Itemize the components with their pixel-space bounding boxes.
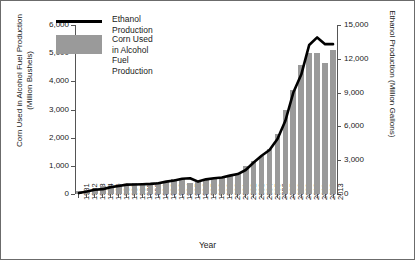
y-axis-left-tick-label: 1,000: [29, 161, 69, 170]
x-axis-tickmark: [150, 194, 151, 198]
x-axis-tickmark: [213, 194, 214, 198]
y-axis-left-tick-label: 3,000: [29, 105, 69, 114]
chart-figure: Corn Used in Alcohol Fuel Production (Mi…: [0, 0, 415, 260]
y-axis-right-spine: [337, 25, 338, 194]
x-axis-tickmark: [293, 194, 294, 198]
y-axis-right-tick-label: 9,000: [344, 88, 364, 97]
x-axis-tickmark: [333, 194, 334, 198]
x-axis-tickmark: [261, 194, 262, 198]
x-axis-tickmark: [269, 194, 270, 198]
y-axis-right-tick-label: 6,000: [344, 121, 364, 130]
x-axis-tickmark: [78, 194, 79, 198]
x-axis-tickmark: [325, 194, 326, 198]
legend-label-ethanol: Ethanol Production: [112, 14, 153, 35]
x-axis-tickmark: [277, 194, 278, 198]
y-axis-right-tick-label: 15,000: [344, 20, 368, 29]
x-axis-tickmark: [221, 194, 222, 198]
x-axis-title: Year: [1, 241, 414, 251]
x-axis-tickmark: [142, 194, 143, 198]
legend-label-corn: Corn Used in Alcohol Fuel Production: [112, 34, 153, 76]
x-axis-tickmark: [245, 194, 246, 198]
x-axis-tickmark: [110, 194, 111, 198]
y-axis-left-tickmark: [71, 194, 75, 195]
y-axis-left-tick-label: 2,000: [29, 133, 69, 142]
x-axis-tickmark: [198, 194, 199, 198]
x-axis-tickmark: [174, 194, 175, 198]
x-axis-tick-label: 2013: [336, 183, 345, 200]
x-axis-tickmark: [301, 194, 302, 198]
legend-bar-swatch: [56, 35, 102, 54]
x-axis-tickmark: [158, 194, 159, 198]
x-axis-tickmark: [285, 194, 286, 198]
y-axis-right-tick-label: 12,000: [344, 54, 368, 63]
y-axis-right-title: Ethanol Production (Million Gallons): [387, 0, 397, 149]
x-axis-tickmark: [126, 194, 127, 198]
x-axis-tickmark: [253, 194, 254, 198]
x-axis-tickmark: [102, 194, 103, 198]
y-axis-right-tick-label: 3,000: [344, 155, 364, 164]
x-axis-tickmark: [182, 194, 183, 198]
x-axis-tickmark: [237, 194, 238, 198]
x-axis-tickmark: [134, 194, 135, 198]
x-axis-tickmark: [118, 194, 119, 198]
x-axis-tickmark: [166, 194, 167, 198]
y-axis-left-tick-label: 0: [29, 189, 69, 198]
x-axis-tickmark: [309, 194, 310, 198]
x-axis-tickmark: [190, 194, 191, 198]
legend-line-swatch: [56, 20, 102, 23]
y-axis-left-tick-label: 4,000: [29, 76, 69, 85]
x-axis-tickmark: [86, 194, 87, 198]
x-axis-tickmark: [94, 194, 95, 198]
x-axis-tickmark: [317, 194, 318, 198]
x-axis-tickmark: [206, 194, 207, 198]
x-axis-tickmark: [229, 194, 230, 198]
